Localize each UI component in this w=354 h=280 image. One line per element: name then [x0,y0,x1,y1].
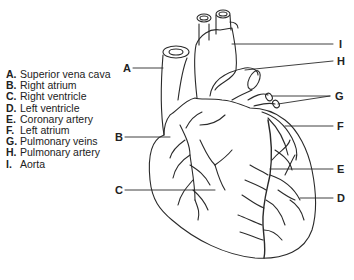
callout-g: G [335,90,344,102]
coronary-artery [238,120,304,258]
heart-outline [149,98,315,258]
callout-h: H [337,55,345,67]
leader-lines [125,44,333,198]
callout-i: I [339,38,342,50]
callout-c: C [115,184,123,196]
aorta [194,10,238,98]
callout-e: E [337,163,344,175]
callout-a: A [123,62,131,74]
callout-b: B [115,131,123,143]
right-coronary-branches [170,112,232,220]
pulmonary-veins [248,92,281,109]
callout-f: F [337,120,344,132]
heart-illustration [0,0,354,280]
superior-vena-cava [161,46,189,135]
callout-d: D [337,192,345,204]
pulmonary-artery [210,68,263,100]
